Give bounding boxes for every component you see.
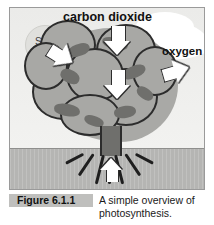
label-oxygen: oxygen xyxy=(162,45,202,57)
figure-number-badge: Figure 6.1.1 xyxy=(9,194,93,207)
figure-photosynthesis: Sun xyxy=(0,0,214,225)
label-carbon-dioxide: carbon dioxide xyxy=(63,10,152,24)
figure-number-label: Figure 6.1.1 xyxy=(17,194,75,206)
figure-caption-text: A simple overview of photosynthesis. xyxy=(99,194,205,220)
tree-trunk xyxy=(100,126,122,156)
figure-caption-line1: A simple overview of xyxy=(99,194,205,207)
diagram-illustration: Sun xyxy=(9,7,205,190)
figure-caption-line2: photosynthesis. xyxy=(99,207,205,220)
figure-caption: Figure 6.1.1 A simple overview of photos… xyxy=(9,194,205,222)
